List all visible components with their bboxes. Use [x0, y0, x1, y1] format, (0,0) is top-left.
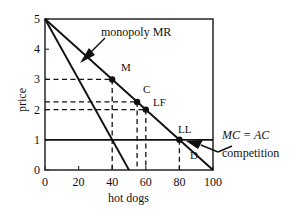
- annotation-arrow-monopoly-mr: [80, 38, 105, 63]
- y-axis-title: price: [16, 88, 28, 112]
- data-point-LF: [143, 106, 149, 112]
- annotation-monopoly-mr: monopoly MR: [101, 26, 171, 38]
- x-tick-label-0: 0: [32, 176, 58, 188]
- annotation-mc-ac: MC = AC: [222, 129, 269, 141]
- data-point-M: [109, 76, 115, 82]
- data-point-C: [134, 99, 140, 105]
- point-label-C: C: [143, 84, 150, 95]
- annotation-competition: competition: [222, 147, 279, 159]
- y-tick-label-0: 0: [26, 164, 40, 176]
- arrow-shaft-competition: [201, 145, 218, 152]
- point-label-M: M: [121, 62, 131, 73]
- y-tick-label-3: 3: [26, 73, 40, 85]
- y-tick-label-1: 1: [26, 134, 40, 146]
- y-tick-label-4: 4: [26, 43, 40, 55]
- x-tick-label-60: 60: [133, 176, 159, 188]
- data-point-LL: [176, 137, 182, 143]
- point-label-LL: LL: [178, 124, 191, 135]
- monopoly-mr-line: [45, 19, 129, 170]
- x-tick-label-100: 100: [200, 176, 226, 188]
- x-axis-title: hot dogs: [108, 192, 149, 204]
- point-label-D: D: [190, 150, 198, 161]
- demand-curve-line: [45, 19, 213, 170]
- x-tick-label-80: 80: [166, 176, 192, 188]
- x-tick-label-20: 20: [66, 176, 92, 188]
- y-tick-label-5: 5: [26, 13, 40, 25]
- figure-container: 0 1 2 3 4 5 0 20 40 60 80 100 hot dogs p…: [0, 0, 302, 214]
- point-label-LF: LF: [153, 97, 166, 108]
- dashed-guides-horizontal: [45, 79, 146, 109]
- x-tick-label-40: 40: [99, 176, 125, 188]
